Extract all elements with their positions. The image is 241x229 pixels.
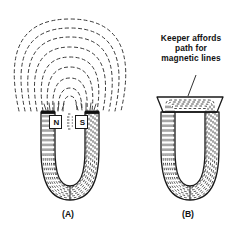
panel-b: [157, 75, 223, 200]
pole-label-south: S: [77, 117, 88, 128]
panel-a: [14, 19, 125, 200]
annotation-line-1: Keeper affords: [142, 33, 240, 43]
figure-canvas: Keeper affords path for magnetic lines N…: [0, 0, 241, 229]
annotation-line-3: magnetic lines: [142, 53, 240, 63]
pole-label-north: N: [51, 117, 62, 128]
annotation-line-2: path for: [142, 43, 240, 53]
keeper-annotation: Keeper affords path for magnetic lines: [142, 33, 240, 64]
caption-panel-b: (B): [168, 209, 208, 219]
caption-panel-a: (A): [48, 209, 88, 219]
gap-field-lines-a: [67, 114, 73, 129]
annotation-leader-line: [188, 75, 196, 96]
pole-face-south-a: [85, 111, 99, 114]
external-field-lines-a: [14, 19, 125, 111]
keeper-bar: [157, 97, 223, 112]
pole-face-north-a: [41, 111, 55, 114]
pole-leakage-strokes-a: [44, 103, 96, 110]
